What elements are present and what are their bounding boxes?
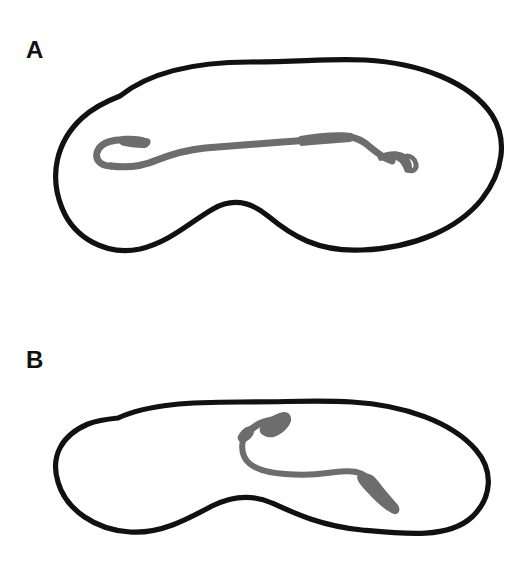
panel-b-trace-upper-kink xyxy=(238,426,254,442)
figure-root: A B xyxy=(0,0,530,584)
panel-b-trace-lower-terminal xyxy=(357,473,399,514)
panel-a-trace-mid-thickening xyxy=(297,132,354,146)
panel-a: A xyxy=(0,0,530,292)
panel-a-drawing xyxy=(0,0,530,292)
panel-b-drawing xyxy=(0,292,530,584)
panel-b: B xyxy=(0,292,530,584)
panel-a-trace-left-barb xyxy=(119,136,150,148)
panel-a-tissue-outline xyxy=(56,59,502,250)
panel-b-trace-upper-terminal xyxy=(260,412,292,437)
